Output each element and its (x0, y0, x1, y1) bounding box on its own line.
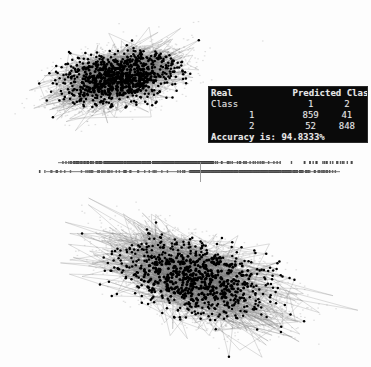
row-2-value-2: 848 (329, 121, 365, 132)
row-1-value-1: 859 (293, 110, 329, 121)
row-1-value-2: 41 (329, 110, 365, 121)
confusion-matrix-table: Real Predicted Class Class 1 2 1 859 41 … (211, 88, 365, 132)
col-label-2: 2 (329, 99, 365, 110)
row-2-value-1: 52 (293, 121, 329, 132)
header-real: Real (211, 88, 293, 99)
figure-canvas: Real Predicted Class Class 1 2 1 859 41 … (0, 0, 371, 367)
row-label-header: Class (211, 99, 293, 110)
accuracy-line: Accuracy is: 94.8333% (211, 132, 365, 143)
table-row: 2 52 848 (211, 121, 365, 132)
col-label-1: 1 (293, 99, 329, 110)
confusion-matrix-panel: Real Predicted Class Class 1 2 1 859 41 … (208, 86, 368, 143)
header-predicted-class: Predicted Class (293, 88, 365, 99)
table-header-row: Real Predicted Class (211, 88, 365, 99)
table-row: Class 1 2 (211, 99, 365, 110)
scatter-plot-canvas (0, 0, 371, 367)
row-2-label: 2 (211, 121, 293, 132)
row-1-label: 1 (211, 110, 293, 121)
table-row: 1 859 41 (211, 110, 365, 121)
